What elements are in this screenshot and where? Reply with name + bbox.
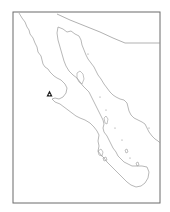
triangle-marker-icon[interactable] xyxy=(47,91,53,97)
islands-group xyxy=(77,71,139,166)
us-mexico-border xyxy=(57,14,160,43)
location-marker-icon[interactable] xyxy=(47,91,53,97)
gulf-coastline-mainland xyxy=(58,27,160,143)
islet-dot xyxy=(99,96,100,97)
map-frame xyxy=(13,12,160,203)
islet-dot xyxy=(87,53,88,54)
marker-center-dot xyxy=(49,94,51,96)
pacific-coastline xyxy=(19,13,149,187)
gulf-coastline-peninsula xyxy=(57,27,147,167)
map xyxy=(0,0,170,212)
island xyxy=(136,162,139,166)
islet-dot xyxy=(114,127,115,128)
island xyxy=(125,149,128,153)
islet-dot xyxy=(148,127,149,128)
island xyxy=(77,71,84,84)
islet-dot xyxy=(121,139,122,140)
small-islands-dots xyxy=(87,53,149,158)
islet-dot xyxy=(129,157,130,158)
island xyxy=(104,116,108,124)
islet-dot xyxy=(105,109,106,110)
